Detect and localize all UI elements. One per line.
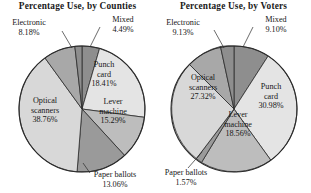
label-electronic: Electronic 9.13%: [156, 18, 210, 37]
chart-panel-counties: Percentage Use, by Counties Electro: [0, 0, 155, 193]
label-lever-machine: Lever machine 15.29%: [88, 97, 138, 126]
label-punch-card: Punch card 30.98%: [246, 82, 296, 111]
label-paper-ballots: Paper ballots 1.57%: [153, 168, 219, 187]
label-optical-scanners: Optical scanners 27.32%: [177, 73, 229, 102]
label-mixed: Mixed 9.10%: [253, 15, 299, 34]
label-paper-ballots: Paper ballots 13.06%: [84, 170, 146, 189]
pie-chart-figure: Percentage Use, by Counties Electro: [0, 0, 311, 193]
leader-line-electronic: [214, 30, 224, 48]
label-lever-machine: Lever machine 18.56%: [212, 110, 264, 139]
chart-panel-voters: Percentage Use, by Voters Electronic: [156, 0, 311, 193]
label-punch-card: Punch card 18.41%: [80, 60, 128, 89]
leader-line-mixed: [243, 27, 253, 47]
leader-line-mixed: [90, 27, 100, 47]
label-optical-scanners: Optical scanners 38.76%: [19, 96, 71, 125]
leader-line-electronic: [62, 31, 72, 48]
label-mixed: Mixed 4.49%: [100, 15, 146, 34]
label-electronic: Electronic 8.18%: [2, 18, 56, 37]
